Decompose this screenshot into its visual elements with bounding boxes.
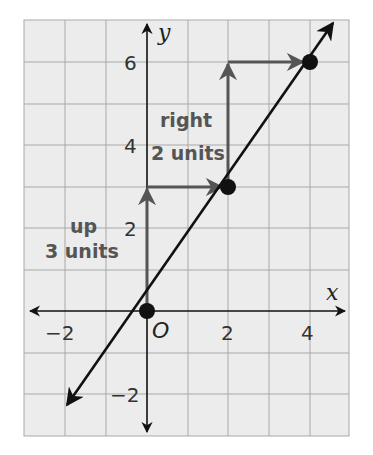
y-tick-4: 4 xyxy=(124,134,137,158)
point-origin xyxy=(139,303,155,319)
y-tick-6: 6 xyxy=(124,51,137,75)
x-tick-4: 4 xyxy=(301,321,314,345)
y-axis-label: y xyxy=(157,20,171,45)
x-tick-2: 2 xyxy=(221,321,234,345)
annotation-up: up xyxy=(70,215,97,237)
y-tick-2: 2 xyxy=(124,217,137,241)
point-4-6 xyxy=(302,54,318,70)
annotation-right-units: 2 units xyxy=(151,142,225,164)
x-tick-neg2: −2 xyxy=(45,321,74,345)
annotation-up-units: 3 units xyxy=(45,240,119,262)
origin-label: O xyxy=(152,318,169,343)
coordinate-plane: y x O −2 2 4 6 4 2 −2 up 3 units right 2… xyxy=(0,0,373,455)
y-tick-neg2: −2 xyxy=(110,383,139,407)
x-axis-label: x xyxy=(326,280,339,305)
annotation-right: right xyxy=(160,109,212,131)
point-2-3 xyxy=(220,179,236,195)
